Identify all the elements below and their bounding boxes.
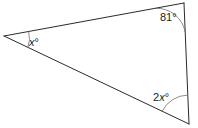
angle-top-right-value: 81 <box>160 11 172 23</box>
angle-left-degree: ° <box>35 36 39 48</box>
triangle-figure: x° 81° 2x° <box>0 0 198 128</box>
angle-label-left: x° <box>28 36 39 48</box>
angle-label-top-right: 81° <box>160 11 177 23</box>
triangle-side-right <box>184 3 189 124</box>
triangle-svg: x° 81° 2x° <box>0 0 198 128</box>
angle-label-bottom-right: 2x° <box>153 91 169 103</box>
triangle-side-bottom <box>4 36 189 124</box>
angle-bottom-right-degree: ° <box>165 91 169 103</box>
angle-top-right-degree: ° <box>172 11 176 23</box>
